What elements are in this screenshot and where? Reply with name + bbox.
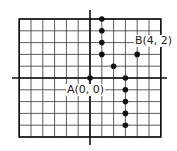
plot-point: [99, 40, 105, 46]
plot-point: [111, 63, 117, 69]
plot-point: [99, 28, 105, 34]
plot-point: [123, 75, 129, 81]
plot-point: [99, 16, 105, 22]
coordinate-grid: [0, 0, 177, 151]
plot-point: [123, 111, 129, 117]
labeled-point: [87, 75, 93, 81]
plot-point: [123, 99, 129, 105]
point-b-label: B(4, 2): [134, 35, 173, 47]
plot-point: [123, 122, 129, 128]
plot-point: [123, 87, 129, 93]
labeled-point: [134, 52, 140, 58]
plot-point: [99, 52, 105, 58]
point-a-label: A(0, 0): [66, 84, 105, 96]
